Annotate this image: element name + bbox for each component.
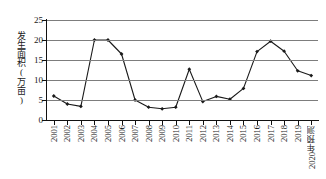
plot-area bbox=[47, 20, 318, 120]
data-point bbox=[174, 105, 178, 109]
gridline bbox=[47, 80, 318, 81]
data-point bbox=[309, 74, 313, 78]
gridline bbox=[47, 40, 318, 41]
x-axis-tick: 2006 bbox=[117, 125, 127, 142]
y-tick-mark bbox=[42, 120, 47, 121]
x-axis-tick: 2013 bbox=[211, 125, 221, 142]
data-point bbox=[214, 95, 218, 99]
y-tick-mark bbox=[42, 80, 47, 81]
y-axis-tick-labels: 0510152025 bbox=[27, 14, 43, 126]
x-axis-tick: 2005 bbox=[103, 125, 113, 142]
x-axis-tick: 2007 bbox=[130, 125, 140, 142]
y-axis-title: 发生面积(万亩) bbox=[14, 18, 28, 118]
line-chart: 发生面积(万亩) 0510152025 20012002200320042005… bbox=[0, 0, 326, 179]
x-axis-tick: 2011 bbox=[184, 125, 194, 142]
x-tick-mark bbox=[311, 121, 312, 125]
x-tick-mark bbox=[108, 121, 109, 125]
x-axis-line bbox=[46, 120, 319, 121]
x-tick-mark bbox=[135, 121, 136, 125]
data-point bbox=[160, 107, 164, 111]
data-point bbox=[187, 67, 191, 71]
y-tick-mark bbox=[42, 100, 47, 101]
gridline bbox=[47, 100, 318, 101]
x-tick-mark bbox=[257, 121, 258, 125]
x-tick-mark bbox=[284, 121, 285, 125]
x-tick-mark bbox=[271, 121, 272, 125]
x-axis-tick: 2014 bbox=[225, 125, 235, 142]
x-axis-tick: 2018 bbox=[279, 125, 289, 142]
x-tick-mark bbox=[162, 121, 163, 125]
gridline bbox=[47, 20, 318, 21]
x-tick-mark bbox=[122, 121, 123, 125]
y-tick-mark bbox=[42, 20, 47, 21]
data-series-line bbox=[47, 20, 318, 120]
y-tick-mark bbox=[42, 60, 47, 61]
x-tick-mark bbox=[67, 121, 68, 125]
gridline bbox=[47, 60, 318, 61]
x-tick-mark bbox=[189, 121, 190, 125]
x-tick-mark bbox=[216, 121, 217, 125]
x-tick-mark bbox=[94, 121, 95, 125]
x-axis-tick: 2012 bbox=[198, 125, 208, 142]
x-axis-tick: 2016 bbox=[252, 125, 262, 142]
y-tick-mark bbox=[42, 40, 47, 41]
x-axis-tick: 2015 bbox=[238, 125, 248, 142]
data-point bbox=[79, 105, 83, 109]
x-tick-mark bbox=[176, 121, 177, 125]
x-axis-tick: 2004 bbox=[89, 125, 99, 142]
x-tick-mark bbox=[54, 121, 55, 125]
x-tick-mark bbox=[243, 121, 244, 125]
x-axis-tick: 2010 bbox=[171, 125, 181, 142]
x-axis-tick-labels: 2001200220032004200520062007200820092010… bbox=[0, 125, 326, 179]
series-polyline bbox=[54, 40, 311, 109]
x-tick-mark bbox=[230, 121, 231, 125]
x-tick-mark bbox=[81, 121, 82, 125]
x-axis-tick: 2017 bbox=[266, 125, 276, 142]
x-axis-tick: 2009 bbox=[157, 125, 167, 142]
x-axis-tick: 2003 bbox=[76, 125, 86, 142]
x-axis-tick: 2020年预测 bbox=[306, 125, 318, 169]
x-axis-tick: 2008 bbox=[144, 125, 154, 142]
x-axis-tick: 2002 bbox=[62, 125, 72, 142]
x-axis-tick: 2019 bbox=[293, 125, 303, 142]
x-tick-mark bbox=[298, 121, 299, 125]
x-axis-tick: 2001 bbox=[49, 125, 59, 142]
x-tick-mark bbox=[203, 121, 204, 125]
x-tick-mark bbox=[149, 121, 150, 125]
